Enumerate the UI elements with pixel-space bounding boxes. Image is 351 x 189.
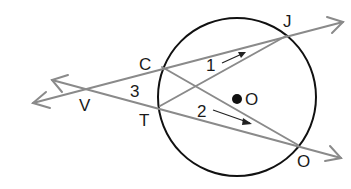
label-angle-3: 3 xyxy=(130,82,139,101)
label-angle-1: 1 xyxy=(206,56,215,75)
label-J: J xyxy=(283,12,292,31)
chord-TJ xyxy=(160,36,286,106)
center-dot xyxy=(232,94,242,104)
label-V: V xyxy=(79,96,91,115)
secant-diagram: V C T J O O 3 1 2 xyxy=(0,0,351,189)
label-T: T xyxy=(139,111,149,130)
label-O-point: O xyxy=(297,152,310,171)
angle2-arrowhead xyxy=(242,118,252,125)
label-angle-2: 2 xyxy=(197,102,206,121)
chord-CO xyxy=(162,67,298,145)
label-center-O: O xyxy=(245,90,258,109)
label-C: C xyxy=(139,55,151,74)
